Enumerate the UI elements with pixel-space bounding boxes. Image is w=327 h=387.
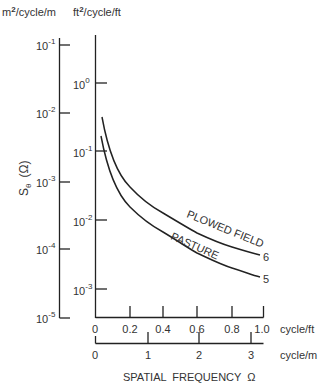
svg-text:100: 100 — [73, 76, 90, 91]
y-axis-label: Sθ(Ω) — [17, 161, 33, 196]
x-unit-ft: cycle/ft — [280, 323, 314, 335]
plowed-end-label: 6 — [263, 251, 269, 263]
svg-text:1.0: 1.0 — [254, 323, 269, 335]
svg-text:0.2: 0.2 — [122, 323, 137, 335]
x-axis-label: SPATIAL FREQUENCY Ω — [123, 371, 256, 383]
svg-text:10-1: 10-1 — [36, 37, 56, 52]
svg-text:10-4: 10-4 — [36, 241, 56, 256]
x-tick-labels-ft: 0 0.2 0.4 0.6 0.8 1.0 — [92, 323, 270, 335]
x-unit-m: cycle/m — [280, 349, 317, 361]
svg-text:10-3: 10-3 — [36, 174, 56, 189]
svg-text:1: 1 — [145, 349, 151, 361]
svg-text:0: 0 — [92, 349, 98, 361]
svg-text:3: 3 — [248, 349, 254, 361]
svg-text:10-2: 10-2 — [73, 213, 93, 228]
right-axis-unit: ft2/cycle/ft — [73, 5, 121, 18]
left-axis-unit: m2/cycle/m — [2, 5, 56, 18]
svg-text:0.6: 0.6 — [189, 323, 204, 335]
svg-text:2: 2 — [196, 349, 202, 361]
svg-text:0.4: 0.4 — [155, 323, 170, 335]
spectral-density-chart: m2/cycle/m ft2/cycle/ft 10-1 10-2 10-3 1… — [0, 0, 327, 387]
svg-text:10-3: 10-3 — [73, 282, 93, 297]
x-axis-ft — [96, 306, 264, 318]
right-y-axis — [96, 35, 108, 318]
left-y-tick-labels: 10-1 10-2 10-3 10-4 10-5 — [36, 37, 56, 325]
svg-text:10-5: 10-5 — [36, 310, 56, 325]
svg-text:0.8: 0.8 — [224, 323, 239, 335]
svg-text:10-2: 10-2 — [36, 105, 56, 120]
pasture-label: PASTURE — [169, 230, 221, 262]
svg-text:0: 0 — [92, 323, 98, 335]
x-tick-labels-m: 0 1 2 3 — [92, 349, 254, 361]
svg-text:10-1: 10-1 — [73, 144, 93, 159]
pasture-end-label: 5 — [263, 273, 269, 285]
pasture-curve — [101, 136, 260, 277]
right-y-tick-labels: 100 10-1 10-2 10-3 — [73, 76, 93, 297]
left-y-axis — [60, 38, 71, 318]
